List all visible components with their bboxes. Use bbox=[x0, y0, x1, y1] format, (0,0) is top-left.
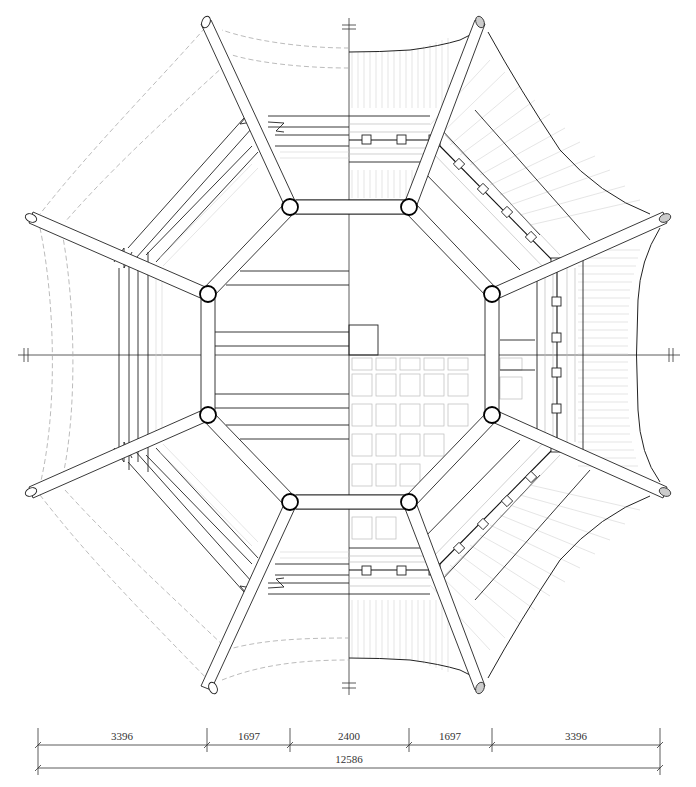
left-interior-beams bbox=[215, 200, 349, 509]
dimension-label: 2400 bbox=[338, 731, 360, 742]
dimension-label: 1697 bbox=[439, 731, 461, 742]
dimension-label: 1697 bbox=[238, 731, 260, 742]
column bbox=[401, 199, 417, 215]
dimension-label: 3396 bbox=[111, 731, 133, 742]
dimension-label: 3396 bbox=[565, 731, 587, 742]
column bbox=[200, 286, 216, 302]
pavilion-plan-drawing bbox=[0, 0, 696, 787]
column bbox=[282, 199, 298, 215]
column bbox=[484, 407, 500, 423]
column bbox=[200, 407, 216, 423]
inner-octagon-beams bbox=[201, 200, 499, 509]
column bbox=[484, 286, 500, 302]
column bbox=[282, 494, 298, 510]
center-axes bbox=[18, 18, 680, 695]
column bbox=[401, 494, 417, 510]
dimension-total-label: 12586 bbox=[335, 754, 363, 765]
